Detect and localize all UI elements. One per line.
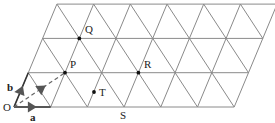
- grid-line: [124, 4, 167, 107]
- grid-line: [240, 4, 262, 38]
- point-R: [137, 71, 141, 75]
- label-P: P: [70, 58, 76, 70]
- grid-line: [130, 4, 197, 107]
- grid-line: [198, 4, 241, 107]
- point-T: [92, 90, 96, 94]
- grid-line: [167, 4, 234, 107]
- label-a: a: [30, 111, 36, 123]
- point-P: [63, 71, 67, 75]
- triangular-lattice-diagram: O a b P Q R T S: [0, 0, 275, 123]
- label-T: T: [99, 86, 106, 98]
- label-Q: Q: [85, 23, 93, 35]
- vector-overlay: [14, 37, 140, 113]
- label-R: R: [144, 58, 152, 70]
- arrow-op-icon: [35, 86, 46, 96]
- grid-line: [51, 4, 94, 107]
- label-b: b: [7, 81, 13, 93]
- grid-line: [161, 4, 204, 107]
- point-Q: [77, 37, 81, 41]
- lattice-grid: [14, 4, 275, 107]
- label-S: S: [120, 109, 126, 121]
- grid-line: [57, 4, 124, 107]
- grid-line: [234, 4, 275, 107]
- label-O: O: [3, 101, 11, 113]
